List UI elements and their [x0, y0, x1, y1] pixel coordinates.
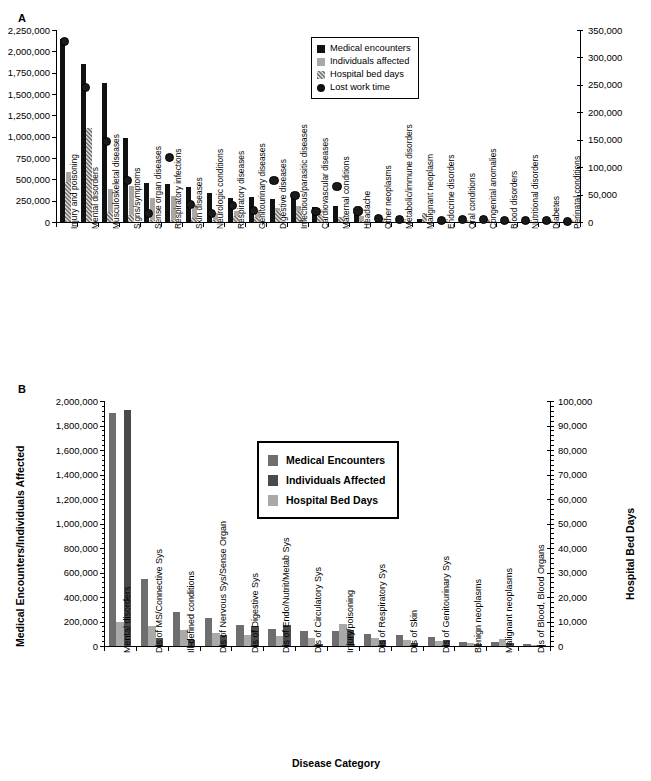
y-minor-tick — [102, 421, 105, 422]
y2-minor-tick — [550, 636, 554, 637]
legend-item: Medical encounters — [317, 42, 411, 55]
y2-minor-tick — [550, 558, 554, 559]
legend-label: Individuals Affected — [286, 475, 385, 486]
y-tick-mark — [52, 73, 57, 74]
y2-minor-tick — [550, 617, 554, 618]
legend-item: Individuals affected — [317, 55, 411, 68]
y-minor-tick — [102, 577, 105, 578]
x-axis-category-label: Skin diseases — [195, 177, 203, 229]
bar-segment — [236, 625, 244, 646]
bar-segment — [165, 184, 170, 222]
panel-b: B 0200,000400,000600,000800,0001,000,000… — [0, 375, 651, 781]
y-minor-tick — [102, 499, 105, 500]
x-axis-category-label: Metabolic/immune disorders — [405, 124, 413, 229]
y2-tick-label: 300,000 — [588, 53, 651, 63]
x-tick-mark — [580, 223, 581, 227]
y-tick-label: 750,000 — [0, 154, 50, 164]
y2-minor-tick — [550, 524, 554, 525]
y2-minor-tick — [550, 533, 554, 534]
y2-tick-label: 60,000 — [558, 495, 628, 505]
x-tick-mark — [203, 223, 204, 227]
x-axis-category-label: Dis of Digestive Sys — [251, 573, 259, 653]
y2-minor-tick — [550, 401, 554, 402]
y-tick-label: 0 — [26, 642, 98, 652]
y-tick-label: 1,000,000 — [26, 519, 98, 529]
y-minor-tick — [102, 528, 105, 529]
y-minor-tick — [102, 636, 105, 637]
y2-minor-tick — [550, 548, 554, 549]
x-tick-mark — [161, 223, 162, 227]
y-minor-tick — [102, 582, 105, 583]
legend-item: Lost work time — [317, 81, 411, 94]
y-tick-label: 600,000 — [26, 568, 98, 578]
y2-minor-tick — [550, 421, 554, 422]
y-minor-tick — [102, 450, 105, 451]
y-tick-label: 200,000 — [26, 617, 98, 627]
y-minor-tick — [102, 519, 105, 520]
x-tick-mark — [308, 223, 309, 227]
panel-a-letter: A — [18, 12, 26, 24]
y2-minor-tick — [550, 607, 554, 608]
y-minor-tick — [102, 626, 105, 627]
x-axis-category-label: Genitourinary diseases — [258, 143, 266, 229]
y-tick-mark — [52, 158, 57, 159]
chart-b-y-axis-title: Medical Encounters/Individuals Affected — [14, 446, 26, 647]
x-tick-mark — [200, 647, 201, 651]
bar-segment — [141, 579, 149, 646]
y-tick-label: 1,000,000 — [0, 132, 50, 142]
y2-minor-tick — [550, 504, 554, 505]
x-tick-mark — [391, 647, 392, 651]
y2-minor-tick — [550, 475, 554, 476]
x-axis-category-label: Malignant neoplasms — [505, 568, 513, 653]
x-axis-category-label: Injury/poisoning — [346, 590, 354, 653]
y2-minor-tick — [550, 460, 554, 461]
x-tick-mark — [391, 223, 392, 227]
legend-label: Hospital bed days — [330, 70, 404, 79]
y2-minor-tick — [550, 479, 554, 480]
y-minor-tick — [102, 504, 105, 505]
x-axis-category-label: Dis of Endo/Nutrit/Metab Sys — [282, 537, 290, 653]
y-minor-tick — [102, 631, 105, 632]
y2-tick-label: 40,000 — [558, 544, 628, 554]
data-point-marker — [144, 209, 153, 218]
y2-minor-tick — [550, 509, 554, 510]
y2-minor-tick — [550, 470, 554, 471]
panel-b-letter: B — [18, 383, 26, 395]
y-tick-label: 2,000,000 — [0, 47, 50, 57]
y-minor-tick — [102, 509, 105, 510]
y2-minor-tick — [550, 406, 554, 407]
x-tick-mark — [224, 223, 225, 227]
data-point-marker — [500, 216, 509, 225]
x-tick-mark — [433, 223, 434, 227]
y-tick-mark — [52, 51, 57, 52]
x-tick-mark — [231, 647, 232, 651]
y-tick-mark — [52, 30, 57, 31]
y2-tick-label: 150,000 — [588, 135, 651, 145]
x-axis-category-label: Dis of Genitourinary Sys — [442, 556, 450, 653]
y2-minor-tick — [550, 587, 554, 588]
y-minor-tick — [102, 597, 105, 598]
x-tick-mark — [182, 223, 183, 227]
x-tick-mark — [550, 647, 551, 651]
y-minor-tick — [102, 416, 105, 417]
y2-minor-tick — [550, 484, 554, 485]
x-axis-category-label: Other neoplasms — [384, 165, 392, 229]
y-minor-tick — [102, 573, 105, 574]
bar-segment — [364, 634, 372, 646]
y2-minor-tick — [550, 445, 554, 446]
y2-minor-tick — [550, 563, 554, 564]
y-tick-label: 2,250,000 — [0, 26, 50, 36]
bar-segment — [268, 629, 276, 646]
y2-tick-mark — [577, 112, 583, 113]
y-minor-tick — [102, 435, 105, 436]
x-tick-mark — [454, 647, 455, 651]
y-tick-mark — [52, 94, 57, 95]
legend-key-hospital-bed-days-icon — [317, 71, 325, 79]
y2-minor-tick — [550, 489, 554, 490]
y2-minor-tick — [550, 430, 554, 431]
x-tick-mark — [454, 223, 455, 227]
y2-minor-tick — [550, 528, 554, 529]
legend-item: Hospital bed days — [317, 68, 411, 81]
y-tick-mark — [52, 115, 57, 116]
y-tick-label: 1,600,000 — [26, 446, 98, 456]
